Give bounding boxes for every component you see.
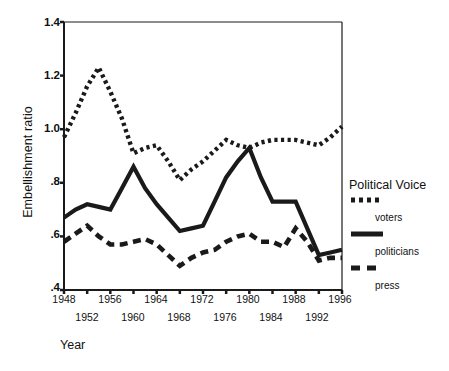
legend-title: Political Voice bbox=[349, 178, 426, 192]
series-line-voters bbox=[64, 68, 342, 181]
data-series-group bbox=[64, 68, 342, 266]
series-line-politicians bbox=[64, 148, 342, 255]
legend-label-press: press bbox=[375, 280, 399, 291]
chart-figure: Embellishment ratio Year 1.4 1.2 1.0 .8 … bbox=[0, 0, 449, 371]
series-line-press bbox=[64, 226, 342, 266]
axes bbox=[64, 22, 342, 290]
legend-label-voters: voters bbox=[375, 212, 402, 223]
legend-label-politicians: politicians bbox=[375, 246, 419, 257]
